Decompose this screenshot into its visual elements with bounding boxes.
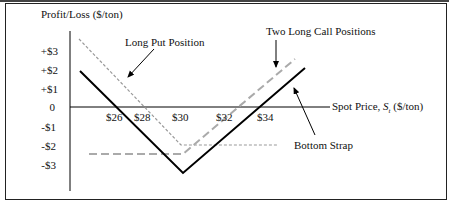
x-axis-label-main: Spot Price, bbox=[332, 100, 383, 112]
y-tick: -$3 bbox=[26, 160, 56, 171]
bottom-strap-annotation: Bottom Strap bbox=[294, 140, 353, 151]
y-tick: +$2 bbox=[28, 65, 58, 76]
y-tick: 0 bbox=[25, 102, 55, 113]
x-axis-label: Spot Price, St ($/ton) bbox=[332, 101, 423, 115]
y-tick: +$1 bbox=[28, 84, 58, 95]
x-tick: $34 bbox=[257, 112, 274, 123]
bottom-strap-arrow bbox=[294, 88, 315, 135]
two-long-calls-annotation: Two Long Call Positions bbox=[266, 26, 376, 37]
x-tick: $30 bbox=[172, 112, 189, 123]
long-put-line bbox=[79, 39, 277, 145]
long-put-annotation: Long Put Position bbox=[125, 37, 204, 48]
x-axis-label-unit: ($/ton) bbox=[390, 100, 423, 112]
x-tick: $28 bbox=[134, 112, 151, 123]
long-put-arrow bbox=[128, 49, 154, 77]
y-tick: -$2 bbox=[26, 141, 56, 152]
y-tick: -$1 bbox=[26, 122, 56, 133]
x-tick: $26 bbox=[106, 112, 123, 123]
y-axis-label: Profit/Loss ($/ton) bbox=[41, 9, 123, 20]
x-tick: $32 bbox=[216, 112, 233, 123]
y-tick: +$3 bbox=[28, 46, 58, 57]
